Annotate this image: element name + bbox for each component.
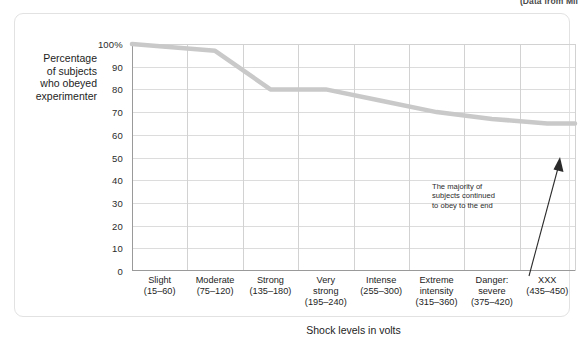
x-tick-label: Intense(255–300)	[360, 275, 402, 297]
y-tick-label: 40	[112, 175, 123, 186]
x-tick-label: Slight(15–60)	[144, 275, 176, 297]
y-tick-label: 80	[112, 84, 123, 95]
x-tick-label-name: Moderate	[196, 275, 235, 286]
x-tick-label-name: severe	[471, 286, 513, 297]
x-axis-title: Shock levels in volts	[132, 324, 575, 336]
x-tick-label-range: (255–300)	[360, 286, 402, 297]
x-tick-label-range: (315–360)	[416, 297, 458, 308]
source-note: (Data from Mil	[520, 0, 578, 6]
obedience-line-series	[132, 44, 575, 271]
x-tick-label: Extremeintensity(315–360)	[416, 275, 458, 307]
x-tick-label-range: (15–60)	[144, 286, 176, 297]
annotation-arrow-icon	[515, 154, 575, 279]
annotation-line-3: to obey to the end	[432, 201, 493, 210]
chart-annotation: The majority of subjects continued to ob…	[432, 182, 528, 210]
annotation-line-1: The majority of	[432, 182, 482, 191]
x-axis-tick-labels: Slight(15–60)Moderate(75–120)Strong(135–…	[132, 275, 575, 317]
x-tick-label-name: Danger:	[471, 275, 513, 286]
x-tick-label-name: Very	[305, 275, 347, 286]
x-tick-label-name: Intense	[360, 275, 402, 286]
y-tick-label: 0	[118, 266, 123, 277]
y-tick-label: 50	[112, 152, 123, 163]
x-tick-label-range: (75–120)	[196, 286, 235, 297]
x-tick-label-range: (135–180)	[249, 286, 291, 297]
plot-area	[132, 44, 575, 271]
x-tick-label-name: Extreme	[416, 275, 458, 286]
chart-root: (Data from Mil Percentage of subjects wh…	[0, 0, 588, 337]
x-tick-label: Verystrong(195–240)	[305, 275, 347, 307]
y-tick-label: 70	[112, 107, 123, 118]
x-tick-label-name: strong	[305, 286, 347, 297]
chart-panel: Percentage of subjects who obeyed experi…	[14, 13, 570, 317]
x-tick-label: Danger:severe(375–420)	[471, 275, 513, 307]
data-line	[132, 44, 575, 123]
y-tick-label: 20	[112, 220, 123, 231]
x-tick-label-name: Strong	[249, 275, 291, 286]
y-tick-label: 100%	[98, 39, 123, 50]
x-tick-label: Moderate(75–120)	[196, 275, 235, 297]
annotation-line-2: subjects continued	[432, 191, 495, 200]
y-axis-tick-labels: 0102030405060708090100%	[15, 44, 127, 271]
y-tick-label: 60	[112, 129, 123, 140]
y-tick-label: 90	[112, 61, 123, 72]
x-tick-label: Strong(135–180)	[249, 275, 291, 297]
x-tick-label-name: intensity	[416, 286, 458, 297]
y-tick-label: 30	[112, 197, 123, 208]
gridline-vertical	[575, 44, 576, 271]
y-tick-label: 10	[112, 243, 123, 254]
x-tick-label-range: (375–420)	[471, 297, 513, 308]
x-tick-label-range: (435–450)	[526, 286, 568, 297]
x-tick-label-name: Slight	[144, 275, 176, 286]
x-tick-label-range: (195–240)	[305, 297, 347, 308]
